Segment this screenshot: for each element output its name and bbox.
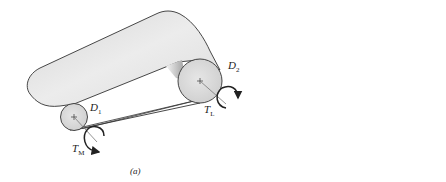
sheet-f2-plane [345, 64, 398, 72]
belt-rear-plane [346, 65, 398, 72]
label-d1-a: D1 [89, 101, 102, 116]
lower-belt-sheet [345, 65, 398, 71]
torque-tl-arrow [217, 86, 238, 108]
sheet-lower [346, 64, 398, 70]
belt-sheet-b [347, 65, 398, 72]
rear-belt [346, 65, 398, 72]
sheet-b-f2 [345, 65, 398, 72]
sheet-rear [345, 64, 400, 70]
label-tm-a: TM [72, 142, 85, 157]
label-d2: D2 [227, 59, 240, 74]
sheet-plane-b [346, 65, 398, 72]
sheet-f2 [346, 64, 398, 72]
second-sheet [345, 65, 398, 72]
flat-sheet-f2 [344, 65, 398, 71]
sheet-f2-visible [346, 65, 398, 72]
sheet-f2-flat [345, 64, 398, 72]
figure-a-belt-drive: D1 D2 TL TM (a) [27, 11, 240, 176]
figure-b-roller-tensions [342, 64, 400, 74]
sheet-back [346, 64, 398, 72]
lower-sheet [343, 64, 398, 72]
belt-sheet-lower-f2 [346, 65, 398, 72]
sheet-f2-surface [345, 65, 398, 71]
sheet-lower-plane [346, 65, 398, 72]
belt-sheet-f2 [342, 64, 398, 74]
belt-lower-sheet-b [346, 65, 398, 72]
sheet-flat [348, 64, 398, 70]
tension-sheet-f2 [346, 65, 399, 70]
f2-sheet [346, 65, 398, 71]
belt-f2-sheet [344, 65, 398, 72]
sheet-b-lower [345, 65, 398, 71]
caption-a: (a) [130, 166, 141, 176]
label-tl: TL [204, 103, 214, 118]
belt-plane-f2 [345, 65, 398, 71]
